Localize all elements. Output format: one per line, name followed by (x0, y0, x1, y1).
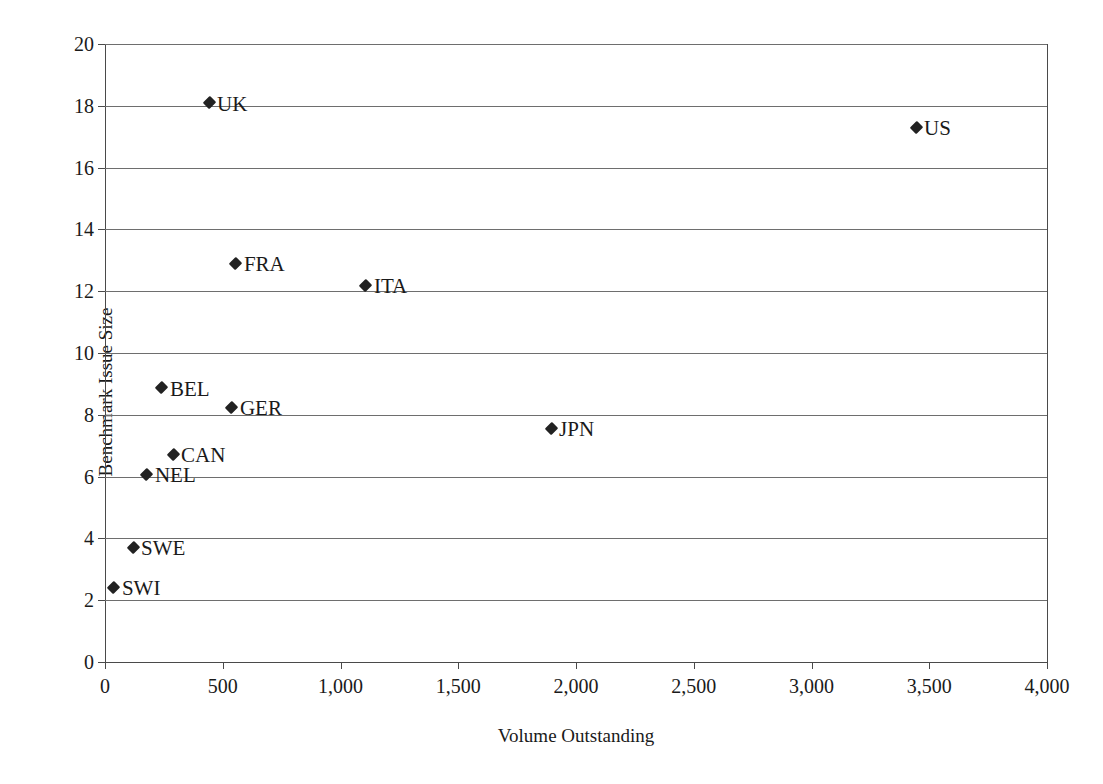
y-tick-label: 16 (74, 158, 94, 178)
scatter-chart-figure: Benchmark Issue Size 02468101214161820 0… (0, 0, 1103, 784)
data-point-label: UK (217, 93, 247, 114)
gridline (105, 538, 1047, 539)
x-tick-mark (929, 662, 930, 669)
gridline (105, 600, 1047, 601)
y-tick-label: 6 (84, 467, 94, 487)
data-point-marker[interactable] (909, 121, 922, 134)
x-tick-label: 2,500 (671, 676, 716, 696)
y-tick-mark (98, 229, 105, 230)
y-tick-mark (98, 353, 105, 354)
data-point-marker[interactable] (140, 467, 153, 480)
y-tick-label: 14 (74, 219, 94, 239)
x-tick-mark (223, 662, 224, 669)
data-point-label: JPN (559, 419, 594, 440)
gridline (105, 291, 1047, 292)
data-point-label: ITA (374, 276, 407, 297)
y-tick-label: 10 (74, 343, 94, 363)
x-tick-label: 3,500 (907, 676, 952, 696)
data-point-marker[interactable] (107, 580, 120, 593)
y-tick-mark (98, 415, 105, 416)
x-tick-label: 2,000 (554, 676, 599, 696)
y-tick-label: 2 (84, 590, 94, 610)
data-point-label: GER (240, 398, 282, 419)
y-tick-mark (98, 168, 105, 169)
data-point-marker[interactable] (225, 400, 238, 413)
x-tick-mark (458, 662, 459, 669)
y-tick-label: 18 (74, 96, 94, 116)
y-tick-mark (98, 44, 105, 45)
data-point-marker[interactable] (126, 540, 139, 553)
x-tick-mark (105, 662, 106, 669)
data-point-label: SWE (141, 538, 185, 559)
y-tick-mark (98, 291, 105, 292)
y-tick-mark (98, 106, 105, 107)
y-tick-mark (98, 477, 105, 478)
y-tick-label: 0 (84, 652, 94, 672)
data-point-marker[interactable] (544, 421, 557, 434)
y-axis-right-line (1047, 44, 1048, 662)
data-point-label: BEL (170, 378, 210, 399)
y-tick-label: 8 (84, 405, 94, 425)
data-point-marker[interactable] (202, 96, 215, 109)
data-point-label: SWI (122, 578, 161, 599)
y-tick-mark (98, 662, 105, 663)
gridline (105, 353, 1047, 354)
data-point-label: FRA (244, 254, 285, 275)
y-tick-label: 4 (84, 528, 94, 548)
data-point-marker[interactable] (229, 257, 242, 270)
y-tick-label: 12 (74, 281, 94, 301)
data-point-marker[interactable] (359, 278, 372, 291)
gridline (105, 168, 1047, 169)
gridline-top (105, 44, 1047, 45)
y-tick-label: 20 (74, 34, 94, 54)
gridline (105, 477, 1047, 478)
data-point-label: NEL (155, 465, 196, 486)
data-point-marker[interactable] (166, 448, 179, 461)
x-tick-mark (1047, 662, 1048, 669)
x-tick-label: 1,500 (436, 676, 481, 696)
gridline (105, 229, 1047, 230)
x-tick-label: 3,000 (789, 676, 834, 696)
data-point-marker[interactable] (155, 381, 168, 394)
y-tick-mark (98, 538, 105, 539)
x-tick-label: 1,000 (318, 676, 363, 696)
plot-area: 02468101214161820 05001,0001,5002,0002,5… (105, 44, 1047, 662)
x-tick-mark (576, 662, 577, 669)
x-tick-label: 4,000 (1025, 676, 1070, 696)
y-tick-mark (98, 600, 105, 601)
x-tick-mark (341, 662, 342, 669)
x-tick-mark (812, 662, 813, 669)
x-tick-mark (694, 662, 695, 669)
x-axis-title: Volume Outstanding (105, 725, 1047, 747)
x-tick-label: 0 (100, 676, 110, 696)
data-point-label: US (924, 118, 951, 139)
x-tick-label: 500 (208, 676, 238, 696)
